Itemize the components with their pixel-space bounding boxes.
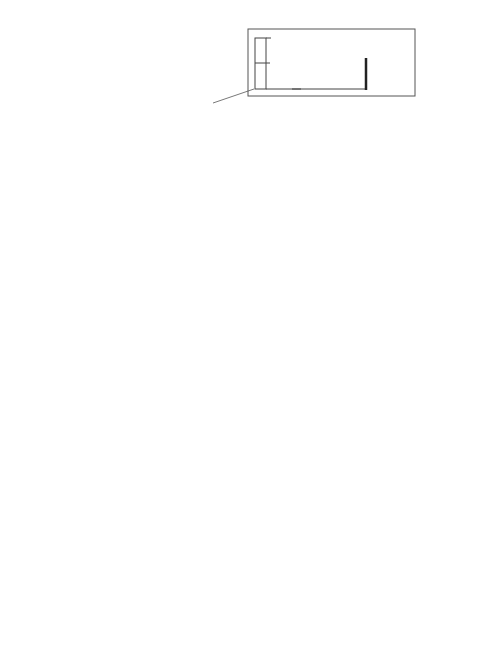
legend — [213, 29, 415, 103]
figure — [0, 0, 480, 650]
